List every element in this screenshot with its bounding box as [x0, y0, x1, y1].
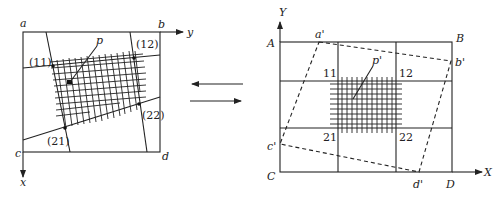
label-p-prime: p': [372, 54, 382, 67]
label-11: 11: [323, 67, 337, 80]
label-Y-axis: Y: [279, 6, 288, 19]
label-12: 12: [399, 67, 413, 80]
label-y-axis: y: [186, 26, 194, 39]
diagram-canvas: a b c d y x p (11) (12) (21) (22): [0, 0, 497, 198]
label-b: b: [158, 18, 165, 31]
label-22: (22): [142, 109, 165, 122]
label-x-axis: x: [20, 176, 27, 189]
label-c: c: [15, 147, 21, 160]
right-frame: [280, 42, 452, 172]
right-fine-mesh: [330, 77, 402, 133]
control-point-12: [132, 56, 136, 60]
control-point-22: [137, 102, 141, 106]
label-22: 22: [399, 131, 413, 144]
label-21: 21: [323, 131, 337, 144]
label-p: p: [96, 34, 103, 47]
label-B: B: [455, 32, 464, 45]
label-C: C: [267, 170, 276, 183]
label-a: a: [20, 17, 27, 30]
control-point-21: [63, 126, 67, 130]
label-12: (12): [136, 38, 159, 51]
left-image-diagram: a b c d y x p (11) (12) (21) (22): [15, 17, 194, 189]
label-X-axis: X: [483, 166, 493, 179]
label-D: D: [445, 178, 455, 191]
mapped-quadrilateral: [280, 42, 451, 172]
control-point-11: [51, 64, 55, 68]
label-a-prime: a': [315, 28, 325, 41]
label-11: (11): [29, 56, 52, 69]
label-d: d: [162, 150, 169, 163]
label-c-prime: c': [267, 140, 276, 153]
right-output-diagram: Y X A B C D a' b' c' d' p' 11 12 21 22: [266, 6, 493, 191]
label-A: A: [266, 37, 275, 50]
label-21: (21): [47, 135, 70, 148]
label-d-prime: d': [413, 178, 423, 191]
label-b-prime: b': [455, 56, 465, 69]
transform-arrows: [190, 84, 243, 101]
